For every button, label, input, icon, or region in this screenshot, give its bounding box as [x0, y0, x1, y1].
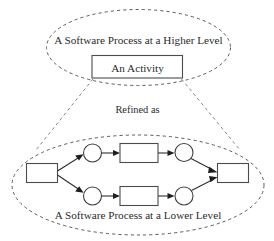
arrowhead-upper-circle-right-to-end	[208, 167, 218, 173]
an-activity-label: An Activity	[111, 62, 164, 74]
lower-box-node[interactable]	[120, 187, 158, 206]
arrowhead-upper-circle-to-upper-box	[113, 150, 120, 156]
arrowhead-lower-box-to-lower-circle-right	[168, 193, 175, 199]
end-box-node[interactable]	[218, 164, 249, 183]
lower-circle-right-node[interactable]	[175, 187, 193, 205]
process-refinement-diagram: A Software Process at a Higher Level An …	[0, 0, 274, 241]
upper-circle-left-node[interactable]	[84, 144, 102, 162]
lower-circle-left-node[interactable]	[84, 187, 102, 205]
upper-box-node[interactable]	[120, 144, 158, 163]
start-box-node[interactable]	[27, 164, 58, 183]
edge-lower-circle-right-to-end	[192, 180, 214, 191]
arrowhead-lower-circle-to-lower-box	[113, 193, 120, 199]
arrowhead-upper-box-to-upper-circle-right	[168, 150, 175, 156]
refined-as-label: Refined as	[115, 104, 159, 115]
diagram-canvas: A Software Process at a Higher Level An …	[0, 0, 274, 241]
lower-level-process-label: A Software Process at a Lower Level	[55, 209, 222, 221]
upper-circle-right-node[interactable]	[175, 144, 193, 162]
higher-level-process-label: A Software Process at a Higher Level	[54, 34, 222, 46]
arrowhead-lower-circle-right-to-end	[209, 176, 218, 182]
